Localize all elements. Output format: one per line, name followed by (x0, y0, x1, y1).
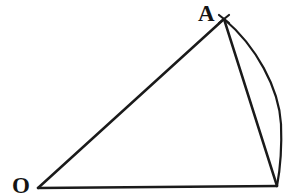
vertex-label-o: O (12, 174, 29, 196)
figure-canvas (0, 0, 290, 196)
geometry-figure: A O (0, 0, 290, 196)
figure-background (0, 0, 290, 196)
vertex-label-a: A (198, 2, 214, 25)
